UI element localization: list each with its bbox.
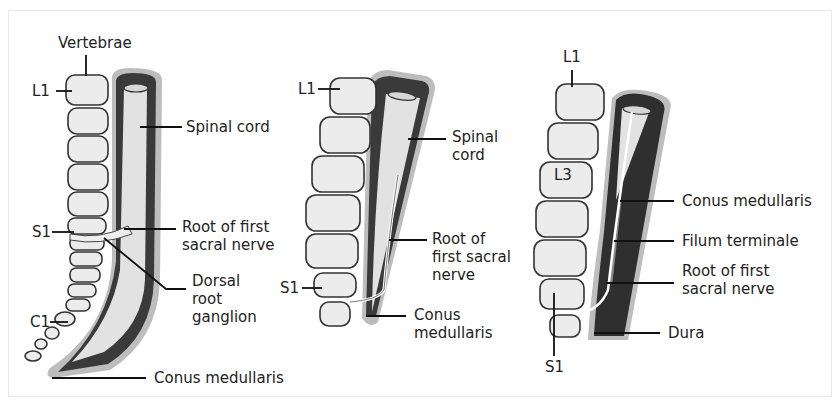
label-conus-medullaris: Conus medullaris	[154, 369, 284, 387]
label-l1: L1	[32, 82, 50, 100]
label-spinal-cord: Spinal cord	[186, 118, 270, 136]
label-s1: S1	[545, 358, 564, 376]
label-spinal-cord: Spinalcord	[452, 128, 498, 164]
label-root-of-first-sacral-nerve: Root of firstsacral nerve	[182, 218, 275, 254]
label-conus-medullaris: Conus medullaris	[682, 192, 812, 210]
label-l1: L1	[563, 48, 581, 66]
label-conus-medullaris: Conusmedullaris	[414, 306, 493, 342]
label-dura: Dura	[668, 324, 704, 342]
label-root-of-first-sacral-nerve: Root of firstsacral nerve	[682, 262, 775, 298]
panel-adult	[534, 70, 674, 356]
label-s1: S1	[32, 223, 51, 241]
label-root-of-first-sacral-nerve: Root offirst sacralnerve	[432, 230, 511, 284]
label-c1: C1	[30, 313, 50, 331]
panel-child	[302, 70, 446, 326]
label-l1: L1	[298, 80, 316, 98]
label-l3: L3	[554, 166, 572, 184]
label-vertebrae: Vertebrae	[58, 34, 132, 52]
label-filum-terminale: Filum terminale	[682, 232, 799, 250]
label-s1: S1	[280, 279, 299, 297]
label-dorsal-root-ganglion: Dorsalrootganglion	[192, 272, 257, 326]
